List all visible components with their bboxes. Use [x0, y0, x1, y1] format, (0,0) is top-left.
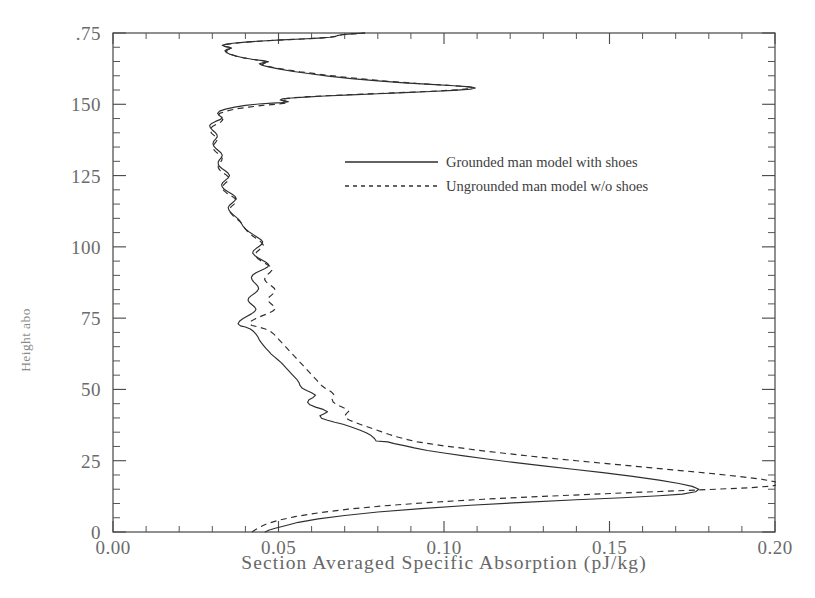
- legend-label-ungrounded: Ungrounded man model w/o shoes: [446, 178, 649, 194]
- x-tick-label: 0.20: [757, 537, 792, 558]
- legend-label-grounded: Grounded man model with shoes: [446, 154, 638, 170]
- y-axis-title: Height abo: [18, 308, 33, 372]
- y-tick-label: 75: [81, 308, 101, 329]
- absorption-profile-chart: 0.000.050.100.150.20 0255075100125150.75…: [0, 0, 815, 598]
- y-tick-label: .75: [76, 23, 101, 44]
- chart-figure: 0.000.050.100.150.20 0255075100125150.75…: [0, 0, 815, 598]
- chart-background: [0, 0, 815, 598]
- y-tick-label: 0: [91, 522, 101, 543]
- y-tick-label: 50: [81, 379, 101, 400]
- y-tick-label: 125: [71, 166, 101, 187]
- y-tick-label: 25: [81, 451, 101, 472]
- y-tick-label: 150: [71, 94, 101, 115]
- y-tick-label: 100: [71, 237, 101, 258]
- x-axis-title: Section Averaged Specific Absorption (pJ…: [241, 552, 646, 574]
